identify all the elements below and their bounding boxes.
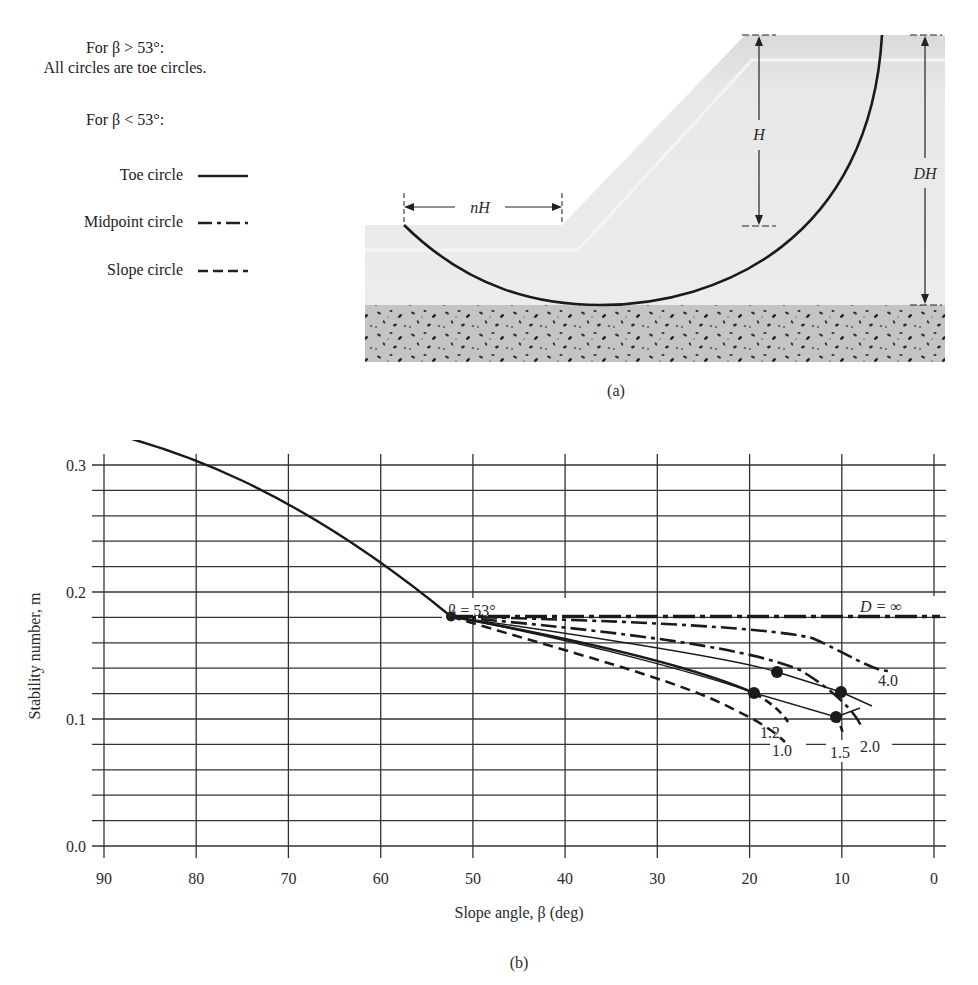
label-1.2: 1.2 bbox=[760, 724, 780, 741]
curve-thin-lower bbox=[451, 617, 860, 718]
svg-text:80: 80 bbox=[188, 870, 204, 887]
marker-d-1.2 bbox=[748, 687, 760, 699]
curve-d-2 bbox=[451, 617, 862, 729]
svg-text:20: 20 bbox=[742, 870, 758, 887]
y-axis-label: Stability number, m bbox=[26, 592, 44, 719]
x-tick-labels: 90 80 70 60 50 40 30 20 10 0 bbox=[96, 870, 938, 887]
figure-a-diagram: nH H DH (a) bbox=[0, 0, 978, 400]
d-infinity-annotation: D = ∞ bbox=[859, 598, 902, 615]
h-label: H bbox=[752, 126, 766, 143]
curve-d-4 bbox=[451, 617, 888, 672]
svg-text:0.3: 0.3 bbox=[66, 457, 86, 474]
curve-d-1.0 bbox=[451, 617, 785, 743]
nh-label: nH bbox=[470, 199, 491, 216]
marker-d-1.5 bbox=[830, 711, 842, 723]
dh-label: DH bbox=[912, 165, 938, 182]
stability-chart: 0.3 0.2 0.1 0.0 90 80 70 60 50 40 30 20 … bbox=[0, 440, 978, 985]
figure-b-caption: (b) bbox=[510, 954, 529, 972]
svg-text:30: 30 bbox=[649, 870, 665, 887]
curves bbox=[104, 440, 940, 742]
label-2.0: 2.0 bbox=[860, 738, 880, 755]
firm-base-layer bbox=[365, 305, 945, 362]
grid bbox=[92, 454, 946, 858]
curve-toe-steep bbox=[104, 440, 451, 617]
svg-text:70: 70 bbox=[280, 870, 296, 887]
y-tick-labels: 0.3 0.2 0.1 0.0 bbox=[66, 457, 86, 855]
svg-text:40: 40 bbox=[557, 870, 573, 887]
svg-text:0.0: 0.0 bbox=[66, 838, 86, 855]
curve-toe-main bbox=[451, 617, 754, 694]
label-1.0: 1.0 bbox=[772, 742, 792, 759]
svg-text:0.1: 0.1 bbox=[66, 711, 86, 728]
marker-d-2 bbox=[771, 666, 783, 678]
x-axis-label: Slope angle, β (deg) bbox=[455, 904, 584, 922]
marker-d-4 bbox=[835, 686, 847, 698]
svg-text:50: 50 bbox=[465, 870, 481, 887]
beta-53-annotation: β = 53° bbox=[448, 602, 496, 620]
label-4.0: 4.0 bbox=[878, 672, 898, 689]
figure-a-caption: (a) bbox=[607, 382, 625, 400]
svg-text:90: 90 bbox=[96, 870, 112, 887]
svg-text:10: 10 bbox=[834, 870, 850, 887]
svg-text:0.2: 0.2 bbox=[66, 584, 86, 601]
svg-text:0: 0 bbox=[930, 870, 938, 887]
label-1.5: 1.5 bbox=[830, 744, 850, 761]
svg-text:60: 60 bbox=[373, 870, 389, 887]
